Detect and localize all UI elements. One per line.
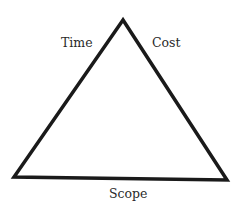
triangle-diagram: Time Cost Scope: [0, 0, 236, 215]
label-time: Time: [61, 37, 93, 50]
label-scope: Scope: [109, 188, 148, 201]
triangle-shape: [0, 0, 236, 215]
triangle-outline: [14, 20, 227, 180]
label-cost: Cost: [152, 37, 181, 50]
